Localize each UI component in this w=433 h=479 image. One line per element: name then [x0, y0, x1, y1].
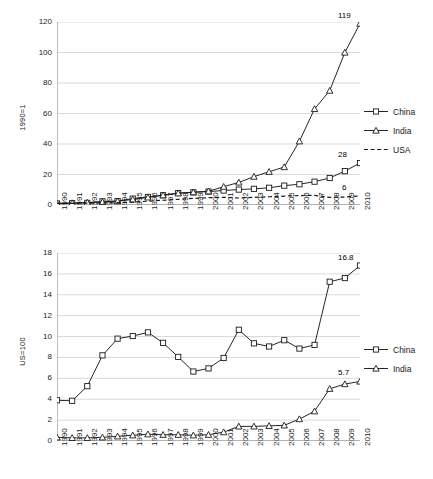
plot-svg-bottom [57, 253, 360, 441]
y-tick-label: 12 [23, 312, 52, 320]
x-tick-label: 2010 [364, 428, 372, 446]
y-tick-label: 18 [23, 249, 52, 257]
data-label-china: 16.8 [338, 254, 354, 262]
legend-item-india[interactable]: India [363, 361, 415, 376]
x-tick-label: 2010 [364, 192, 372, 210]
y-tick-label: 60 [23, 110, 52, 118]
y-axis-title-top: 1990=1 [18, 96, 27, 140]
figure-container: 1990=1 020406080100120 19901991199219931… [0, 0, 433, 479]
y-tick-label: 6 [23, 374, 52, 382]
y-tick-label: 20 [23, 171, 52, 179]
y-tick-label: 0 [23, 437, 52, 445]
y-tick-label: 14 [23, 291, 52, 299]
legend-label: China [393, 107, 415, 117]
y-tick-label: 8 [23, 353, 52, 361]
legend-label: USA [393, 145, 410, 155]
y-tick-label: 0 [23, 201, 52, 209]
data-label-india: 119 [338, 12, 351, 20]
legend-swatch-usa-icon [363, 144, 389, 155]
legend-item-china[interactable]: China [363, 104, 415, 119]
legend-swatch-india-icon [363, 125, 389, 136]
legend-top: ChinaIndiaUSA [363, 104, 415, 161]
data-label-usa: 6 [342, 184, 346, 192]
series-line-china [57, 266, 360, 401]
legend-item-usa[interactable]: USA [363, 142, 415, 157]
y-tick-label: 40 [23, 140, 52, 148]
y-tick-label: 80 [23, 79, 52, 87]
legend-label: India [393, 126, 411, 136]
plot-area-bottom [57, 253, 360, 441]
legend-swatch-china-icon [363, 344, 389, 355]
y-tick-label: 16 [23, 270, 52, 278]
legend-label: India [393, 364, 411, 374]
legend-swatch-china-icon [363, 106, 389, 117]
legend-swatch-india-icon [363, 363, 389, 374]
y-tick-label: 120 [23, 18, 52, 26]
chart-bottom: US=100 024681012141618 19901991199219931… [0, 240, 433, 479]
plot-svg-top [57, 22, 360, 205]
legend-label: China [393, 345, 415, 355]
chart-top: 1990=1 020406080100120 19901991199219931… [0, 0, 433, 240]
y-tick-label: 2 [23, 416, 52, 424]
y-tick-label: 100 [23, 49, 52, 57]
legend-item-china[interactable]: China [363, 342, 415, 357]
legend-item-india[interactable]: India [363, 123, 415, 138]
y-tick-label: 10 [23, 333, 52, 341]
plot-area-top [57, 22, 360, 205]
data-label-china: 28 [338, 151, 347, 159]
y-tick-label: 4 [23, 395, 52, 403]
legend-bottom: ChinaIndia [363, 342, 415, 380]
data-label-india: 5.7 [338, 369, 349, 377]
